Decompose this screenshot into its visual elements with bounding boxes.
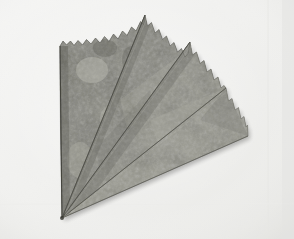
photograph: Four overlapping triangular leaf blades … xyxy=(0,0,294,239)
photo-grain-overlay xyxy=(0,0,294,239)
photo-canvas xyxy=(0,0,294,239)
